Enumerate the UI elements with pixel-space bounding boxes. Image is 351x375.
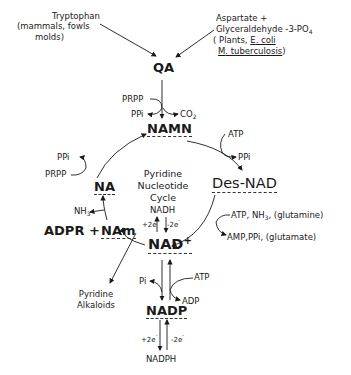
node-des-nad: Des-NAD — [212, 176, 277, 193]
nad-text: NAD — [148, 236, 183, 252]
nh3-text: NH — [74, 206, 87, 216]
e-sup-2: - — [178, 217, 180, 223]
nadh-minus2e: -2e- — [167, 218, 180, 229]
cycle-label-1: Pyridine — [128, 168, 198, 180]
pyridine-alkaloids: Pyridine Alkaloids — [66, 289, 126, 311]
node-qa: QA — [153, 61, 174, 74]
node-namn: NAMN — [147, 122, 192, 137]
arrow-aspartate-qa — [176, 30, 214, 57]
e-sup-3: - — [156, 332, 158, 338]
e-sup-4: - — [182, 332, 184, 338]
nam-nh3: NH3 — [74, 207, 91, 217]
node-nad-plus: NAD+ — [148, 236, 192, 254]
nadh-plus2e: +2e- — [142, 218, 158, 229]
na-prpp: PRPP — [45, 170, 66, 179]
minus2e-text: -2e — [167, 221, 178, 229]
alkaloids-line-2: Alkaloids — [66, 300, 126, 311]
nh3-sub-2: 3 — [87, 210, 91, 217]
glyceraldehyde-sub: 4 — [309, 28, 313, 35]
org-open: ( Plants, — [213, 35, 250, 45]
ecoli-species: . coli — [256, 35, 276, 45]
mtb-organism: M. tuberculosis) — [218, 47, 286, 56]
nadp-atp: ATP — [194, 273, 209, 282]
source-tryptophan: Tryptophan — [40, 12, 112, 21]
tryptophan-organisms-2: molds) — [35, 33, 64, 42]
node-nadp: NADP — [146, 304, 187, 319]
aspartate-label: Aspartate + — [216, 14, 267, 23]
minus2e-text-2: -2e — [171, 336, 182, 344]
desnad-amp-ppi: AMP,PPi, (glutamate) — [227, 233, 316, 242]
alkaloids-line-1: Pyridine — [66, 289, 126, 300]
co2-text: CO — [180, 109, 193, 119]
tryptophan-label: Tryptophan — [40, 12, 112, 21]
nadp-minus2e: -2e- — [171, 333, 184, 344]
mtb-species: . tuberculosis — [225, 46, 282, 56]
qa-co2: CO2 — [180, 110, 196, 120]
plus2e-text-2: +2e — [141, 336, 156, 344]
cycle-label: Pyridine Nucleotide Cycle — [128, 168, 198, 204]
na-ppi: PPi — [57, 153, 69, 162]
node-adpr: ADPR + — [44, 224, 100, 237]
glyceraldehyde-text: Glyceraldehyde -3-PO — [216, 24, 309, 34]
qa-ppi: PPi — [131, 110, 143, 119]
nadp-pi: Pi — [139, 277, 146, 286]
e-sup: - — [157, 217, 159, 223]
node-nam: NAm — [101, 224, 136, 239]
atp-nh3-text: ATP, NH — [231, 210, 265, 220]
tryptophan-organisms: (mammals, fowls — [17, 22, 90, 31]
node-na: NA — [94, 180, 115, 195]
glutamine-text: , (glutamine) — [268, 210, 323, 220]
qa-prpp: PRPP — [122, 95, 143, 104]
nadp-plus2e: +2e- — [141, 333, 157, 344]
glyceraldehyde-label: Glyceraldehyde -3-PO4 — [216, 25, 312, 35]
plus2e-text: +2e — [142, 221, 157, 229]
nad-charge: + — [183, 235, 191, 246]
node-nadh: NADH — [150, 206, 175, 215]
namn-ppi: PPi — [238, 153, 250, 162]
co2-sub: 2 — [193, 113, 197, 120]
arrow-tryptophan-qa — [100, 24, 156, 56]
namn-atp: ATP — [228, 130, 243, 139]
desnad-atp-nh3: ATP, NH3, (glutamine) — [231, 211, 323, 221]
org-close: ) — [282, 46, 285, 56]
cycle-label-2: Nucleotide — [128, 180, 198, 192]
aspartate-organisms: ( Plants, E. coli — [213, 36, 276, 45]
node-nadph: NADPH — [146, 355, 176, 364]
cycle-label-3: Cycle — [128, 192, 198, 204]
